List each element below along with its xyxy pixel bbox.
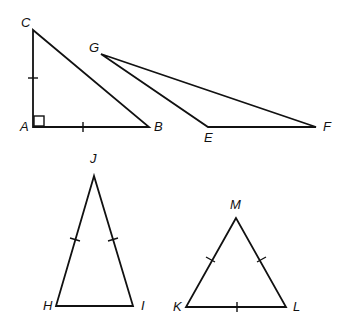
triangles-diagram: C A B G E F J H I M K L [0,0,349,328]
triangle-klm-outline [186,218,286,307]
triangle-abc: C A B [19,15,163,134]
triangle-hij-outline [56,176,133,306]
triangle-klm: M K L [173,197,300,314]
vertex-label-a: A [19,119,29,134]
vertex-label-j: J [89,151,97,166]
vertex-label-i: I [141,298,145,313]
vertex-label-c: C [21,15,31,30]
triangle-hij: J H I [43,151,145,313]
triangle-efg-outline [101,54,316,127]
vertex-label-m: M [230,197,241,212]
vertex-label-g: G [89,40,99,55]
vertex-label-h: H [43,298,53,313]
vertex-label-b: B [154,119,163,134]
triangle-efg: G E F [89,40,332,145]
right-angle-mark [34,116,44,126]
vertex-label-k: K [173,299,183,314]
vertex-label-f: F [323,119,332,134]
vertex-label-l: L [293,299,300,314]
vertex-label-e: E [204,130,213,145]
